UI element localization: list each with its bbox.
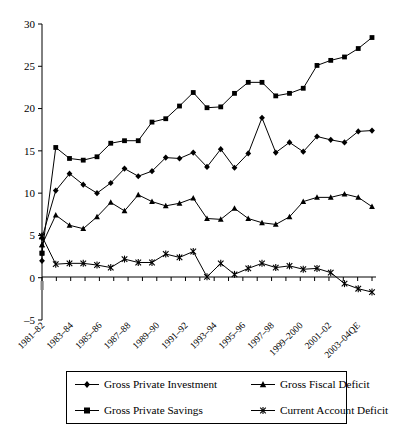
y-axis-tick-label: 0: [30, 272, 36, 284]
y-axis-tick-label: 25: [24, 60, 36, 72]
legend-label: Gross Private Investment: [104, 379, 217, 390]
legend-item-gross-private-savings[interactable]: Gross Private Savings: [74, 405, 250, 416]
y-axis-tick-label: 10: [24, 187, 36, 199]
x-axis-tick-label: 1993–94: [188, 320, 219, 351]
y-axis-tick-label: 20: [24, 102, 36, 114]
x-axis-tick-label: 1985–86: [73, 320, 104, 351]
line-chart-canvas: –50510152025301981–821983–841985–861987–…: [0, 0, 410, 434]
x-axis-tick-label: 1989–90: [131, 320, 162, 351]
chart-legend: Gross Private Investment Gross Fiscal De…: [66, 371, 347, 424]
axis-origin-mark: [41, 281, 44, 290]
x-axis-tick-label: 1991–92: [159, 320, 190, 351]
legend-label: Current Account Deficit: [280, 405, 388, 416]
chart-root: –50510152025301981–821983–841985–861987–…: [0, 0, 410, 434]
y-axis-tick-label: 15: [24, 145, 36, 157]
legend-item-gross-private-investment[interactable]: Gross Private Investment: [74, 379, 250, 390]
x-axis-tick-label: 1995–96: [217, 320, 248, 351]
legend-item-current-account-deficit[interactable]: Current Account Deficit: [250, 405, 388, 416]
diamond-marker-icon: [74, 379, 100, 390]
series-current-account-deficit: [39, 233, 375, 296]
legend-label: Gross Private Savings: [104, 405, 203, 416]
legend-item-gross-fiscal-deficit[interactable]: Gross Fiscal Deficit: [250, 379, 388, 390]
legend-label: Gross Fiscal Deficit: [280, 379, 369, 390]
y-axis-tick-label: 5: [30, 229, 36, 241]
star-marker-icon: [250, 405, 276, 416]
series-gross-fiscal-deficit: [39, 191, 375, 247]
square-marker-icon: [74, 405, 100, 416]
series-gross-private-investment: [39, 115, 375, 264]
x-axis-tick-label: 1987–88: [102, 320, 133, 351]
y-axis-tick-label: 30: [24, 18, 36, 30]
x-axis-tick-label: 1983–84: [45, 320, 76, 351]
triangle-marker-icon: [250, 379, 276, 390]
y-axis-tick-label: –5: [23, 314, 36, 326]
